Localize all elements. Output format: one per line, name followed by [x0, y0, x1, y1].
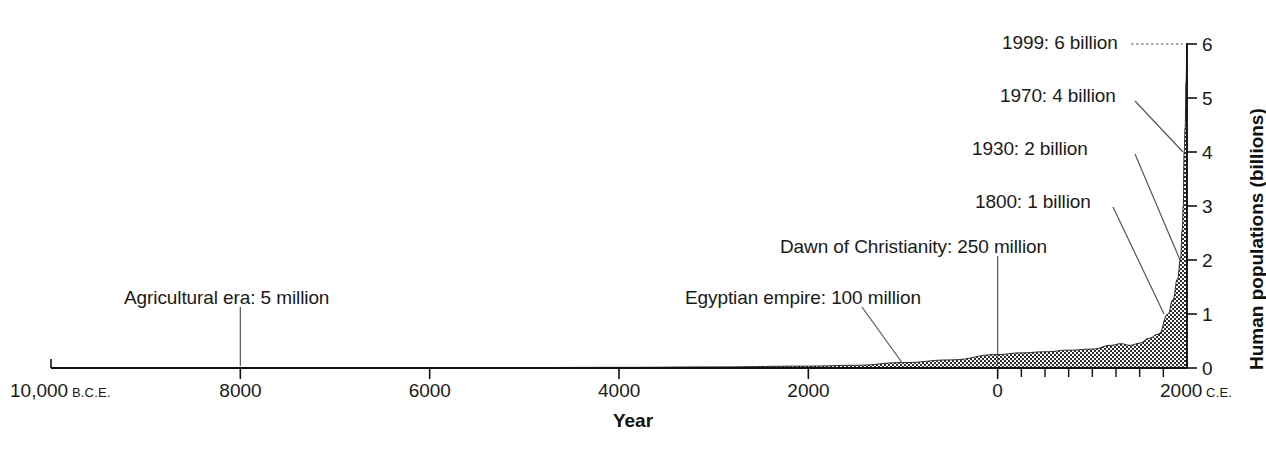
- x-tick-label-6000: 6000: [409, 381, 451, 400]
- x-tick-label-8000: 8000: [219, 381, 261, 400]
- y-tick-label-6: 6: [1202, 35, 1222, 54]
- x-tick-era: C.E.: [1202, 385, 1232, 400]
- annotation-1970-four-billion: 1970: 4 billion: [1000, 86, 1116, 105]
- x-tick-year: 8000: [219, 380, 261, 401]
- y-tick-label-4: 4: [1202, 143, 1222, 162]
- x-axis-title: Year: [0, 411, 1266, 430]
- x-tick-label-10000: 10,000 B.C.E.: [10, 381, 111, 400]
- annotation-agricultural-era: Agricultural era: 5 million: [124, 288, 329, 307]
- y-tick-label-5: 5: [1202, 89, 1222, 108]
- x-tick-year: 0: [992, 380, 1003, 401]
- y-axis-title: Human populations (billions): [1247, 108, 1266, 370]
- x-axis-minor-ticks: [1021, 368, 1163, 377]
- x-tick-label-0: 0: [992, 381, 1003, 400]
- annotation-1930-two-billion: 1930: 2 billion: [972, 139, 1088, 158]
- annotation-egyptian-empire: Egyptian empire: 100 million: [685, 288, 921, 307]
- annotation-1999-six-billion: 1999: 6 billion: [1002, 33, 1118, 52]
- y-tick-label-1: 1: [1202, 305, 1222, 324]
- x-tick-label-2000: 2000: [787, 381, 829, 400]
- y-axis-ticks: [1187, 44, 1197, 368]
- y-tick-label-0: 0: [1202, 359, 1222, 378]
- x-tick-label-2000: 2000 C.E.: [1160, 381, 1232, 400]
- annotation-dawn-of-christianity: Dawn of Christianity: 250 million: [780, 237, 1047, 256]
- x-tick-label-4000: 4000: [598, 381, 640, 400]
- x-tick-year: 4000: [598, 380, 640, 401]
- x-tick-year: 2000: [787, 380, 829, 401]
- y-tick-label-3: 3: [1202, 197, 1222, 216]
- population-growth-chart: Agricultural era: 5 million Egyptian emp…: [0, 0, 1266, 455]
- x-tick-year: 2000: [1160, 380, 1202, 401]
- x-tick-year: 10,000: [10, 380, 68, 401]
- x-tick-year: 6000: [409, 380, 451, 401]
- annotation-1800-one-billion: 1800: 1 billion: [975, 192, 1091, 211]
- x-tick-era: B.C.E.: [68, 385, 111, 400]
- y-tick-label-2: 2: [1202, 251, 1222, 270]
